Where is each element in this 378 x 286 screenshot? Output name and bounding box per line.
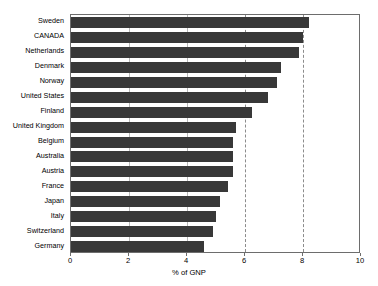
bar-row xyxy=(71,149,359,164)
x-tick-label: 2 xyxy=(126,257,130,265)
y-tick-label: Australia xyxy=(36,152,64,159)
bar-row xyxy=(71,45,359,60)
bar xyxy=(71,17,309,28)
y-tick-label: France xyxy=(42,182,64,189)
y-tick-label: Germany xyxy=(34,242,64,249)
y-tick-label: Norway xyxy=(40,77,64,84)
bar-row xyxy=(71,15,359,30)
bar-row xyxy=(71,75,359,90)
y-tick-label: Belgium xyxy=(38,137,64,144)
bar-row xyxy=(71,105,359,120)
bar-row xyxy=(71,30,359,45)
bar-row xyxy=(71,194,359,209)
y-axis-category-labels: SwedenCANADANetherlandsDenmarkNorwayUnit… xyxy=(0,14,67,253)
y-tick-label: Denmark xyxy=(35,62,64,69)
bar xyxy=(71,77,277,88)
chart-title xyxy=(0,1,378,2)
bar xyxy=(71,47,299,58)
y-tick-label: Switzerland xyxy=(27,227,64,234)
bar xyxy=(71,32,303,43)
x-tick-label: 10 xyxy=(356,257,364,265)
bar-row xyxy=(71,179,359,194)
bar-chart-figure: SwedenCANADANetherlandsDenmarkNorwayUnit… xyxy=(0,0,378,286)
bar xyxy=(71,241,204,252)
y-tick-label: United Kingdom xyxy=(13,122,64,129)
x-tick-label: 4 xyxy=(184,257,188,265)
plot-area xyxy=(70,14,360,253)
bars-group xyxy=(71,15,359,252)
y-tick-label: Japan xyxy=(44,197,64,204)
x-tick-label: 0 xyxy=(68,257,72,265)
bar xyxy=(71,151,233,162)
x-tick-label: 8 xyxy=(300,257,304,265)
bar xyxy=(71,226,213,237)
bar-row xyxy=(71,135,359,150)
bar xyxy=(71,196,220,207)
bar-row xyxy=(71,90,359,105)
y-tick-label: Finland xyxy=(40,107,64,114)
y-tick-label: Netherlands xyxy=(25,47,64,54)
y-tick-label: United States xyxy=(21,92,64,99)
x-axis-title: % of GNP xyxy=(0,268,378,277)
bar-row xyxy=(71,224,359,239)
bar xyxy=(71,137,233,148)
bar xyxy=(71,122,236,133)
y-tick-label: Austria xyxy=(42,167,64,174)
bar xyxy=(71,181,228,192)
bar xyxy=(71,92,268,103)
bar-row xyxy=(71,164,359,179)
bar-row xyxy=(71,209,359,224)
bar xyxy=(71,62,281,73)
y-tick-label: Italy xyxy=(51,212,64,219)
bar-row xyxy=(71,120,359,135)
x-tick-label: 6 xyxy=(242,257,246,265)
bar xyxy=(71,211,216,222)
bar-row xyxy=(71,239,359,254)
y-tick-label: CANADA xyxy=(34,32,64,39)
bar xyxy=(71,107,252,118)
y-tick-label: Sweden xyxy=(38,17,64,24)
bar-row xyxy=(71,60,359,75)
bar xyxy=(71,166,233,177)
